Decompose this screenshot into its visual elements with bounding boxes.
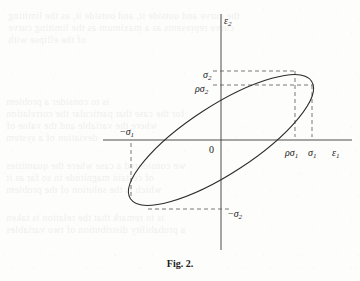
x-axis-label-epsilon-1: ε1 <box>332 142 339 160</box>
figure-caption: Fig. 2. <box>0 258 360 269</box>
tick-label-sigma-1-negative: −σ1 <box>120 121 134 139</box>
tick-label-sigma-1-positive: σ1 <box>308 142 316 160</box>
tick-label-rho-sigma-2: ρσ2 <box>195 78 208 96</box>
figure-2-container: the curve and outside it, and outside it… <box>0 0 360 281</box>
tick-label-rho-sigma-1: ρσ1 <box>285 142 298 160</box>
y-axis-label-epsilon-2: ε2 <box>224 10 231 28</box>
ellipse-plot-svg <box>0 0 360 281</box>
tick-label-sigma-2-negative: −σ2 <box>228 203 242 221</box>
origin-label: 0 <box>209 139 214 157</box>
